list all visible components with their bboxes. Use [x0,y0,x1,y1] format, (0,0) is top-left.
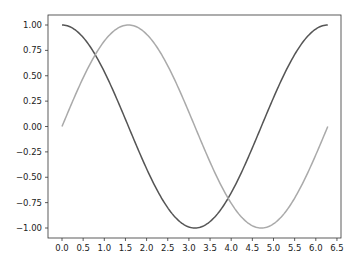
x-tick-label: 3.0 [182,243,196,253]
y-axis: 1.000.750.500.250.00−0.25−0.50−0.75−1.00 [16,20,48,233]
x-axis: 0.00.51.01.52.02.53.03.54.04.55.05.56.06… [55,238,343,253]
x-tick-label: 6.0 [309,243,323,253]
x-tick-label: 1.5 [119,243,133,253]
x-tick-label: 2.5 [161,243,175,253]
y-tick-label: −0.75 [16,198,42,208]
x-tick-label: 5.5 [288,243,302,253]
x-tick-label: 0.0 [55,243,69,253]
x-tick-label: 3.5 [203,243,217,253]
x-tick-label: 4.0 [224,243,238,253]
x-tick-label: 4.5 [246,243,260,253]
y-tick-label: −1.00 [16,223,42,233]
x-tick-label: 2.0 [140,243,154,253]
y-tick-label: 0.00 [23,122,42,132]
x-tick-label: 6.5 [330,243,344,253]
y-tick-label: 0.50 [23,71,42,81]
y-tick-label: 0.75 [23,45,42,55]
line-chart: 1.000.750.500.250.00−0.25−0.50−0.75−1.00… [0,0,361,264]
x-tick-label: 0.5 [76,243,90,253]
y-tick-label: 1.00 [23,20,42,30]
x-tick-label: 1.0 [98,243,112,253]
x-tick-label: 5.0 [267,243,281,253]
y-tick-label: −0.50 [16,172,42,182]
y-tick-label: 0.25 [23,96,42,106]
y-tick-label: −0.25 [16,147,42,157]
